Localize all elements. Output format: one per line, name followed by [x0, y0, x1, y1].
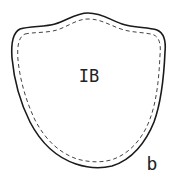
region-label: IB — [79, 66, 99, 86]
shield-shape-diagram: IB b — [0, 0, 176, 180]
outer-outline — [12, 13, 166, 168]
inner-dashed-outline — [18, 19, 161, 162]
panel-label: b — [147, 153, 158, 174]
